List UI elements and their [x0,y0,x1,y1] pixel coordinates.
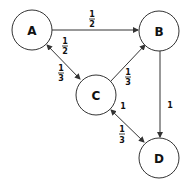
node-c: C [76,75,116,115]
svg-text:1: 1 [119,125,125,134]
label-c-d: 1 3 [119,125,125,145]
label-d-c: 1 [120,102,126,111]
label-a-b: 1 2 [89,10,95,29]
label-a-c: 1 2 [62,37,68,56]
svg-text:3: 3 [58,74,64,83]
svg-text:1: 1 [89,10,95,19]
svg-text:1: 1 [120,102,126,111]
svg-text:1: 1 [167,101,173,110]
svg-text:1: 1 [62,37,68,46]
edge-c-d [111,110,144,142]
svg-text:1: 1 [58,64,64,73]
svg-text:3: 3 [125,78,131,87]
node-c-label: C [92,89,101,103]
node-a: A [12,10,52,50]
label-c-a: 1 3 [58,64,64,83]
graph-diagram: A B C D 1 2 1 2 1 3 1 3 1 1 1 3 [0,0,188,188]
svg-text:1: 1 [125,68,131,77]
label-b-d: 1 [167,101,173,110]
node-d-label: D [154,152,164,166]
node-a-label: A [27,24,37,38]
node-b-label: B [154,25,163,39]
svg-text:2: 2 [62,47,68,56]
node-d: D [139,138,179,178]
node-b: B [139,11,179,51]
svg-text:3: 3 [119,136,125,145]
svg-text:2: 2 [89,20,95,29]
label-c-b: 1 3 [125,68,131,87]
